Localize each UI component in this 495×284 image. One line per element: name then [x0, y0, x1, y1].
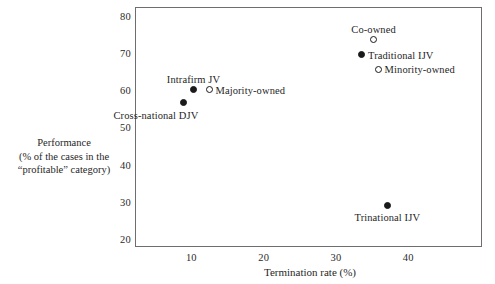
- data-point-label: Majority-owned: [215, 85, 285, 96]
- x-tick-label: 40: [388, 252, 428, 263]
- data-point-label: Traditional IJV: [368, 50, 434, 61]
- y-axis-title-line: Performance: [0, 136, 128, 150]
- data-point-label: Trinational IJV: [307, 212, 467, 223]
- data-point-label: Cross-national DJV: [73, 110, 198, 121]
- data-point-label: Minority-owned: [385, 64, 455, 75]
- data-point-marker[interactable]: [384, 202, 391, 209]
- x-tick-label: 30: [316, 252, 356, 263]
- data-point-marker[interactable]: [375, 66, 382, 73]
- data-point-label: Intrafirm JV: [114, 74, 274, 85]
- x-axis-title: Termination rate (%): [215, 266, 405, 279]
- scatter-chart-figure: 20304050607080 10203040 Cross-national D…: [0, 0, 495, 284]
- y-axis-title-line: (% of the cases in the: [0, 150, 128, 164]
- data-point-label: Co-owned: [294, 24, 454, 35]
- x-tick-label: 20: [244, 252, 284, 263]
- x-tick-label: 10: [171, 252, 211, 263]
- y-axis-title-line: “profitable” category): [0, 163, 128, 177]
- y-axis-title: Performance(% of the cases in the“profit…: [0, 136, 128, 177]
